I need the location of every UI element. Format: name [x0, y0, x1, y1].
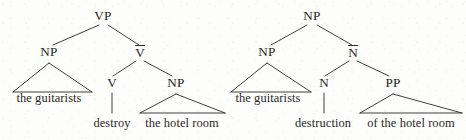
syntax-tree-figure: VPNPVVNPthe guitaristsdestroythe hotel r… — [0, 0, 466, 140]
branch-vp-to-np-spec — [53, 25, 99, 45]
bar-level-wrapper: V — [135, 45, 145, 59]
node-label-np: NP — [258, 45, 275, 58]
node-label-np: NP — [40, 45, 57, 58]
triangle-left-edge — [360, 94, 393, 113]
triangle-right-edge — [267, 63, 311, 92]
triangle-left-edge — [140, 94, 176, 113]
triangle-left-edge — [231, 63, 267, 92]
triangle-right-edge — [176, 94, 225, 113]
branch-vbar-to-v-head — [113, 61, 136, 76]
triangle-right-edge — [49, 63, 92, 92]
bar-level-wrapper: N — [348, 45, 358, 59]
branch-np-root-to-np-spec2 — [271, 25, 307, 45]
terminal-t-of-hotel-room: of the hotel room — [367, 117, 454, 129]
node-label-v: V — [107, 76, 117, 89]
node-label-v-bar: V — [135, 45, 145, 59]
terminal-t-destroy: destroy — [93, 117, 130, 129]
bar-category-text: N — [348, 45, 358, 60]
node-label-np: NP — [167, 76, 184, 89]
branch-nbar-to-pp-comp — [357, 61, 389, 76]
branch-nbar-to-n-head — [325, 61, 349, 76]
node-label-vp: VP — [94, 9, 111, 22]
node-label-np: NP — [303, 9, 320, 22]
triangle-left-edge — [13, 63, 49, 92]
terminal-t-guitarists-2: the guitarists — [235, 92, 300, 104]
triangle-right-edge — [393, 94, 462, 113]
terminal-t-hotel-room: the hotel room — [145, 117, 219, 129]
bar-category-text: V — [135, 45, 145, 60]
node-label-pp: PP — [385, 76, 400, 89]
branch-vp-to-vbar — [108, 25, 139, 45]
terminal-t-destruction: destruction — [295, 117, 351, 129]
branch-np-root-to-nbar — [317, 25, 352, 45]
bar-overline — [135, 45, 145, 46]
branch-vbar-to-np-comp — [144, 61, 172, 76]
terminal-t-guitarists: the guitarists — [16, 92, 81, 104]
node-label-n: N — [319, 76, 329, 89]
node-label-n-bar: N — [348, 45, 358, 59]
bar-overline — [348, 45, 358, 46]
